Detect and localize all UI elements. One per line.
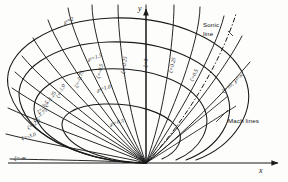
sonic-line-label-1: Sonic: [203, 21, 219, 28]
x-axis-label: x: [259, 166, 263, 175]
y-axis-label: y: [138, 4, 142, 13]
mach-leader: [216, 110, 228, 122]
sonic-line-label-2: line: [203, 30, 213, 37]
zeta-curve-family: [6, 5, 250, 163]
zeta-label: ζ=0: [142, 58, 148, 67]
figure-canvas: ℘=2 ℘=1.5 ℘=1.0 ℘=0.5 ζ=-∞ ζ=-3.0 ζ=-2.0…: [0, 0, 288, 182]
diagram-svg: [0, 0, 288, 182]
zeta-label: ζ=-∞: [14, 155, 26, 162]
zeta-curve: [146, 36, 242, 163]
mach-lines-label: Mach lines: [228, 117, 259, 124]
zeta-curve: [146, 5, 174, 163]
mach-lines: [146, 96, 236, 163]
